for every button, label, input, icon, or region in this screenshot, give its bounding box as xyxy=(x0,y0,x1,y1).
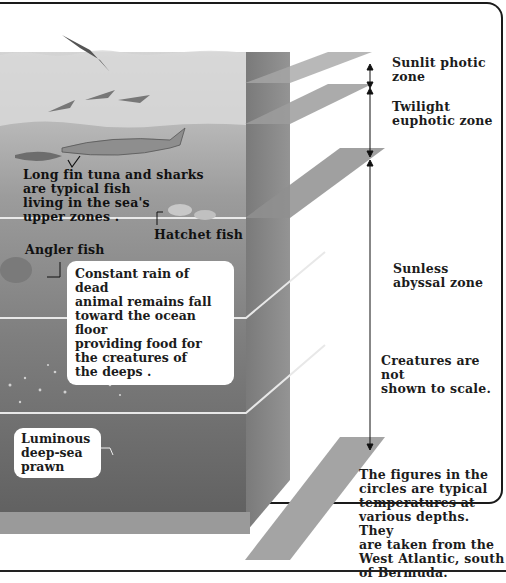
zone-label-sunless: Sunless abyssal zone xyxy=(393,262,483,290)
zone-label-twilight: Twilight euphotic zone xyxy=(392,100,493,128)
bottom-rule xyxy=(0,570,506,572)
floor-slab xyxy=(0,512,250,534)
label-hatchet-fish: Hatchet fish xyxy=(154,228,243,242)
note-temperatures: The figures in the circles are typical t… xyxy=(359,468,506,580)
callout-dead-remains: Constant rain of dead animal remains fal… xyxy=(67,261,234,385)
note-scale: Creatures are not shown to scale. xyxy=(381,354,506,396)
sea-surface xyxy=(0,50,246,127)
callout-prawn: Luminous deep-sea prawn xyxy=(14,428,101,478)
label-angler-fish: Angler fish xyxy=(25,243,105,257)
label-tuna-sharks: Long fin tuna and sharks are typical fis… xyxy=(23,168,204,224)
angler-fish-icon xyxy=(0,257,32,283)
zone-label-sunlit: Sunlit photic zone xyxy=(392,56,486,84)
depth-arrows xyxy=(367,64,373,450)
